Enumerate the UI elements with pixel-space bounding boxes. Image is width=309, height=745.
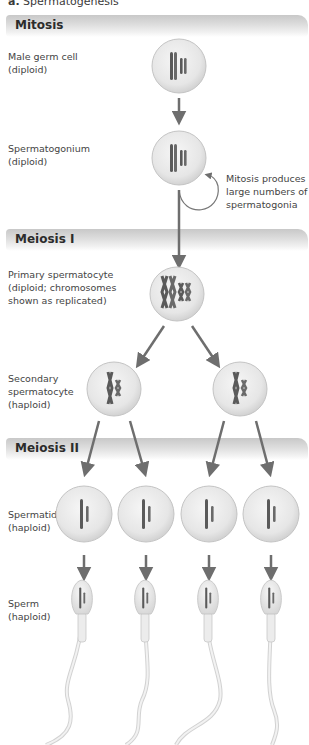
sperm-1	[46, 580, 92, 745]
cell-secondary-spermatocyte-2	[213, 362, 267, 416]
cell-spermatid-3	[181, 486, 237, 542]
arrow-diag-icon	[130, 421, 144, 470]
sperm-3	[176, 580, 221, 745]
sperm-4	[261, 580, 282, 745]
spermatogenesis-diagram	[0, 0, 309, 745]
cell-male-germ-cell	[152, 39, 206, 93]
cell-primary-spermatocyte	[150, 267, 204, 321]
arrow-diag-icon	[256, 421, 269, 470]
arrow-diag-icon	[211, 421, 224, 470]
arrow-diag-left-icon	[140, 326, 164, 362]
cell-spermatid-2	[118, 486, 174, 542]
sperm-2	[126, 580, 155, 745]
cell-secondary-spermatocyte-1	[87, 362, 141, 416]
cell-spermatid-4	[243, 486, 299, 542]
cell-spermatid-1	[56, 486, 112, 542]
cell-spermatogonium	[152, 131, 206, 185]
arrow-diag-icon	[86, 421, 99, 470]
arrow-diag-right-icon	[192, 326, 216, 362]
